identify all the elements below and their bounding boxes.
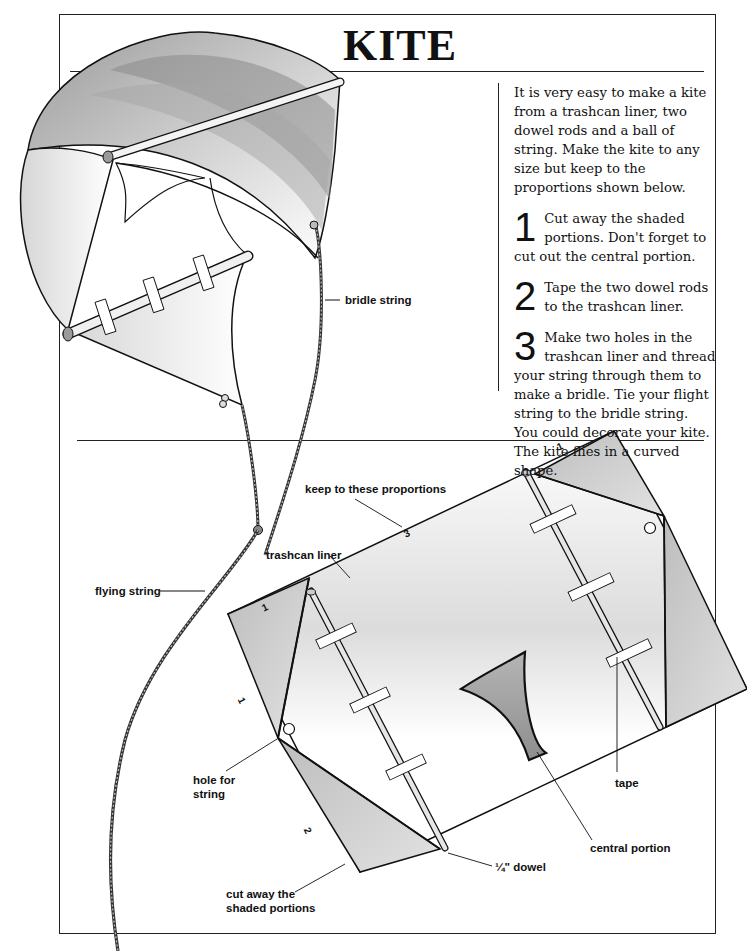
page-title: KITE (300, 20, 500, 71)
instructions-panel: It is very easy to make a kite from a tr… (498, 83, 716, 391)
step-2: 2 Tape the two dowel rods to the trashca… (514, 278, 716, 316)
flying-string-label: flying string (95, 584, 161, 598)
cut-away-line1: cut away the (226, 887, 315, 901)
hole-right (645, 523, 656, 534)
kite-plan-diagram (226, 431, 747, 892)
step-number: 1 (514, 210, 536, 244)
trashcan-liner-label: trashcan liner (266, 548, 341, 562)
step-1: 1 Cut away the shaded portions. Don't fo… (514, 209, 716, 266)
hole-for-string-line2: string (193, 787, 235, 801)
dowel-label: ¼" dowel (495, 860, 546, 874)
step-3: 3 Make two holes in the trashcan liner a… (514, 328, 716, 480)
step-text: Make two holes in the trashcan liner and… (514, 330, 715, 478)
hole-for-string-label: hole for string (193, 773, 235, 801)
central-portion-label: central portion (590, 841, 671, 855)
step-text: Tape the two dowel rods to the trashcan … (544, 280, 708, 314)
bridle-string-label: bridle string (345, 293, 411, 307)
hole-for-string-line1: hole for (193, 773, 235, 787)
flying-kite-illustration (21, 32, 340, 951)
intro-text: It is very easy to make a kite from a tr… (514, 83, 716, 197)
tape-label: tape (615, 776, 639, 790)
cut-away-line2: shaded portions (226, 901, 315, 915)
step-number: 2 (514, 279, 536, 313)
step-number: 3 (514, 329, 536, 363)
step-text: Cut away the shaded portions. Don't forg… (514, 211, 706, 264)
cut-away-label: cut away the shaded portions (226, 887, 315, 915)
hole-left (284, 724, 295, 735)
keep-proportions-label: keep to these proportions (305, 482, 446, 496)
